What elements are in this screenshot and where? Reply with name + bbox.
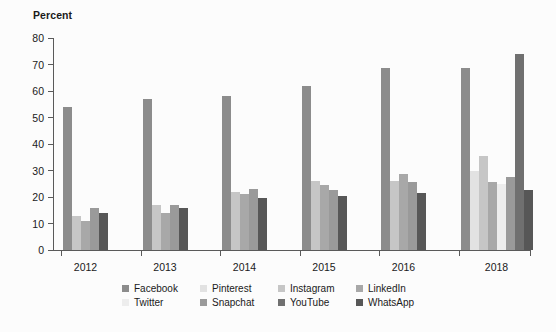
bar-instagram-2014 (231, 192, 240, 250)
bars (381, 38, 426, 250)
y-tick-label: 40 (32, 138, 44, 150)
bar-whatsapp-2018 (524, 190, 533, 250)
bar-instagram-2013 (152, 205, 161, 250)
y-axis-title: Percent (33, 9, 72, 21)
bar-facebook-2018 (461, 68, 470, 250)
y-tick-label: 10 (32, 218, 44, 230)
x-tick-2015 (300, 250, 301, 256)
legend-swatch-icon (122, 299, 129, 306)
bars (222, 38, 267, 250)
bar-pinterest-2018 (470, 171, 479, 250)
x-tick-2012 (61, 250, 62, 256)
legend-swatch-icon (200, 285, 207, 292)
x-axis-end-tick-group (530, 38, 531, 250)
y-tick-label: 80 (32, 32, 44, 44)
legend-item-facebook[interactable]: Facebook (122, 283, 200, 294)
x-tick-end (530, 250, 531, 256)
bar-snapchat-2016 (408, 182, 417, 250)
chart-container: Percent 01020304050607080 20122013201420… (0, 0, 556, 332)
x-tick-2018 (459, 250, 460, 256)
legend-label: Snapchat (212, 297, 254, 308)
bar-linkedin-2012 (81, 221, 90, 250)
legend-item-linkedin[interactable]: LinkedIn (356, 283, 434, 294)
bar-snapchat-2015 (329, 190, 338, 250)
bar-whatsapp-2012 (99, 213, 108, 250)
bar-whatsapp-2014 (258, 198, 267, 250)
x-tick-2016 (379, 250, 380, 256)
legend-label: YouTube (290, 297, 329, 308)
bar-snapchat-2012 (90, 208, 99, 250)
bar-linkedin-2016 (399, 174, 408, 250)
bar-snapchat-2013 (170, 205, 179, 250)
legend-label: Twitter (134, 297, 163, 308)
legend-label: WhatsApp (368, 297, 414, 308)
bar-youtube-2018 (515, 54, 524, 250)
bar-facebook-2012 (63, 107, 72, 250)
bar-linkedin-2015 (320, 185, 329, 250)
legend-item-pinterest[interactable]: Pinterest (200, 283, 278, 294)
bar-linkedin-2018 (488, 182, 497, 250)
legend-row-1: FacebookPinterestInstagramLinkedIn (122, 283, 434, 294)
bar-whatsapp-2013 (179, 208, 188, 250)
bar-linkedin-2014 (240, 194, 249, 250)
y-tick-label: 50 (32, 112, 44, 124)
y-tick-label: 30 (32, 165, 44, 177)
bar-whatsapp-2015 (338, 196, 347, 250)
legend-label: Facebook (134, 283, 178, 294)
plot-area: 01020304050607080 2012201320142015201620… (53, 38, 530, 250)
bar-instagram-2016 (390, 181, 399, 250)
bar-snapchat-2018 (506, 177, 515, 250)
bar-linkedin-2013 (161, 213, 170, 250)
legend-item-youtube[interactable]: YouTube (278, 297, 356, 308)
bar-whatsapp-2016 (417, 193, 426, 250)
bar-group-2013: 2013 (133, 38, 213, 250)
bars (302, 38, 347, 250)
bar-group-2014: 2014 (212, 38, 292, 250)
legend-swatch-icon (122, 285, 129, 292)
y-tick-label: 20 (32, 191, 44, 203)
bar-instagram-2015 (311, 181, 320, 250)
chart-legend: FacebookPinterestInstagramLinkedIn Twitt… (0, 283, 556, 308)
legend-item-twitter[interactable]: Twitter (122, 297, 200, 308)
x-axis-label-2015: 2015 (312, 261, 335, 273)
x-axis-label-2016: 2016 (392, 261, 415, 273)
bar-facebook-2015 (302, 86, 311, 250)
legend-item-instagram[interactable]: Instagram (278, 283, 356, 294)
bar-instagram-2018 (479, 156, 488, 250)
bar-snapchat-2014 (249, 189, 258, 250)
x-axis-label-2013: 2013 (153, 261, 176, 273)
y-tick-label: 0 (38, 244, 44, 256)
bar-twitter-2018 (497, 184, 506, 250)
bar-group-2018: 2018 (451, 38, 531, 250)
legend-swatch-icon (200, 299, 207, 306)
y-tick-label: 60 (32, 85, 44, 97)
x-axis-label-2012: 2012 (74, 261, 97, 273)
bar-facebook-2014 (222, 96, 231, 250)
legend-item-whatsapp[interactable]: WhatsApp (356, 297, 434, 308)
legend-swatch-icon (356, 299, 363, 306)
legend-swatch-icon (278, 299, 285, 306)
bars (143, 38, 188, 250)
legend-label: LinkedIn (368, 283, 406, 294)
bar-instagram-2012 (72, 216, 81, 250)
legend-swatch-icon (356, 285, 363, 292)
y-tick-label: 70 (32, 59, 44, 71)
x-axis-label-2014: 2014 (233, 261, 256, 273)
legend-row-2: TwitterSnapchatYouTubeWhatsApp (122, 297, 434, 308)
bars (461, 38, 533, 250)
bar-facebook-2016 (381, 68, 390, 250)
bar-group-2012: 2012 (53, 38, 133, 250)
legend-swatch-icon (278, 285, 285, 292)
bars (63, 38, 108, 250)
x-tick-2013 (141, 250, 142, 256)
x-axis-label-2018: 2018 (485, 261, 508, 273)
bar-group-2015: 2015 (292, 38, 372, 250)
legend-label: Pinterest (212, 283, 251, 294)
legend-item-snapchat[interactable]: Snapchat (200, 297, 278, 308)
x-tick-2014 (220, 250, 221, 256)
bar-facebook-2013 (143, 99, 152, 250)
bar-group-2016: 2016 (371, 38, 451, 250)
legend-label: Instagram (290, 283, 334, 294)
